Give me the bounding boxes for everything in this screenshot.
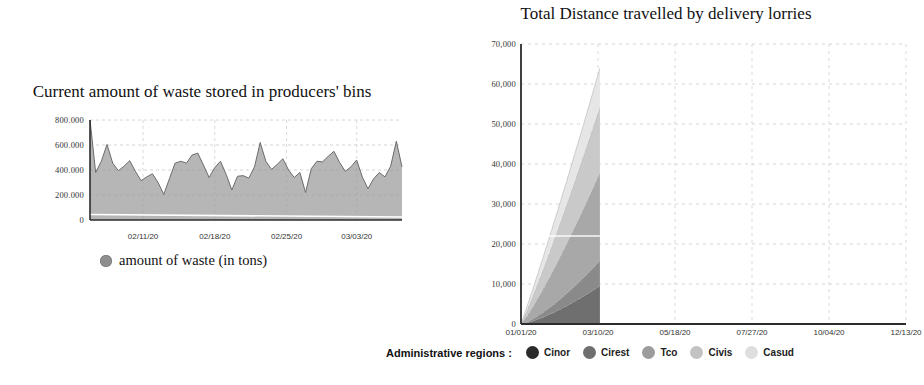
legend-swatch-icon — [583, 346, 596, 359]
distance-y-tick: 30,000 — [491, 199, 516, 209]
distance-y-axis: 010,00020,00030,00040,00050,00060,00070,… — [466, 38, 516, 330]
waste-y-tick: 0 — [80, 215, 84, 225]
waste-y-tick: 200.000 — [55, 190, 84, 200]
distance-x-tick: 01/01/20 — [505, 328, 536, 337]
distance-legend-item[interactable]: Casud — [745, 346, 794, 359]
legend-swatch-icon — [745, 346, 758, 359]
legend-swatch-icon — [642, 346, 655, 359]
distance-y-tick: 70,000 — [491, 39, 516, 49]
distance-x-axis: 01/01/2003/10/2005/18/2007/27/2010/04/20… — [521, 328, 906, 342]
distance-legend-label: Cinor — [544, 347, 570, 358]
distance-y-tick: 10,000 — [491, 279, 516, 289]
waste-y-tick: 600.000 — [55, 140, 84, 150]
distance-y-tick: 50,000 — [491, 119, 516, 129]
distance-legend-caption: Administrative regions : — [386, 347, 512, 359]
distance-x-tick: 12/13/20 — [890, 328, 921, 337]
distance-y-tick: 60,000 — [491, 79, 516, 89]
distance-legend-label: Civis — [708, 347, 732, 358]
distance-legend-label: Cirest — [601, 347, 629, 358]
waste-chart: Current amount of waste stored in produc… — [22, 82, 442, 282]
distance-legend-item[interactable]: Tco — [642, 346, 677, 359]
distance-legend-item[interactable]: Cinor — [526, 346, 570, 359]
waste-area-svg — [90, 120, 402, 220]
legend-swatch-icon — [526, 346, 539, 359]
waste-legend-label: amount of waste (in tons) — [119, 252, 267, 269]
distance-stacked-area-svg — [521, 44, 906, 324]
waste-y-tick: 400.000 — [55, 165, 84, 175]
waste-x-axis: 02/11/2002/18/2002/25/2003/03/20 — [90, 232, 402, 246]
distance-chart-title: Total Distance travelled by delivery lor… — [466, 4, 866, 24]
distance-legend-label: Casud — [763, 347, 794, 358]
waste-x-tick: 02/11/20 — [128, 232, 159, 241]
distance-legend-label: Tco — [660, 347, 677, 358]
distance-plot-area — [521, 44, 906, 324]
waste-y-axis: 0200.000400.000600.000800.000 — [22, 112, 84, 228]
waste-plot-area — [90, 120, 402, 220]
waste-legend-swatch-icon — [100, 255, 112, 267]
distance-x-tick: 10/04/20 — [813, 328, 844, 337]
distance-x-tick: 03/10/20 — [582, 328, 613, 337]
distance-chart: Total Distance travelled by delivery lor… — [466, 4, 924, 382]
waste-legend: amount of waste (in tons) — [100, 252, 267, 269]
waste-x-tick: 02/25/20 — [271, 232, 302, 241]
distance-y-tick: 40,000 — [491, 159, 516, 169]
waste-x-tick: 02/18/20 — [199, 232, 230, 241]
distance-legend-item[interactable]: Civis — [690, 346, 732, 359]
waste-chart-title: Current amount of waste stored in produc… — [22, 82, 382, 102]
distance-legend: Administrative regions : CinorCirestTcoC… — [386, 346, 807, 359]
distance-x-tick: 07/27/20 — [736, 328, 767, 337]
distance-legend-item[interactable]: Cirest — [583, 346, 629, 359]
distance-x-tick: 05/18/20 — [659, 328, 690, 337]
waste-x-tick: 03/03/20 — [341, 232, 372, 241]
waste-y-tick: 800.000 — [55, 115, 84, 125]
legend-swatch-icon — [690, 346, 703, 359]
distance-y-tick: 20,000 — [491, 239, 516, 249]
